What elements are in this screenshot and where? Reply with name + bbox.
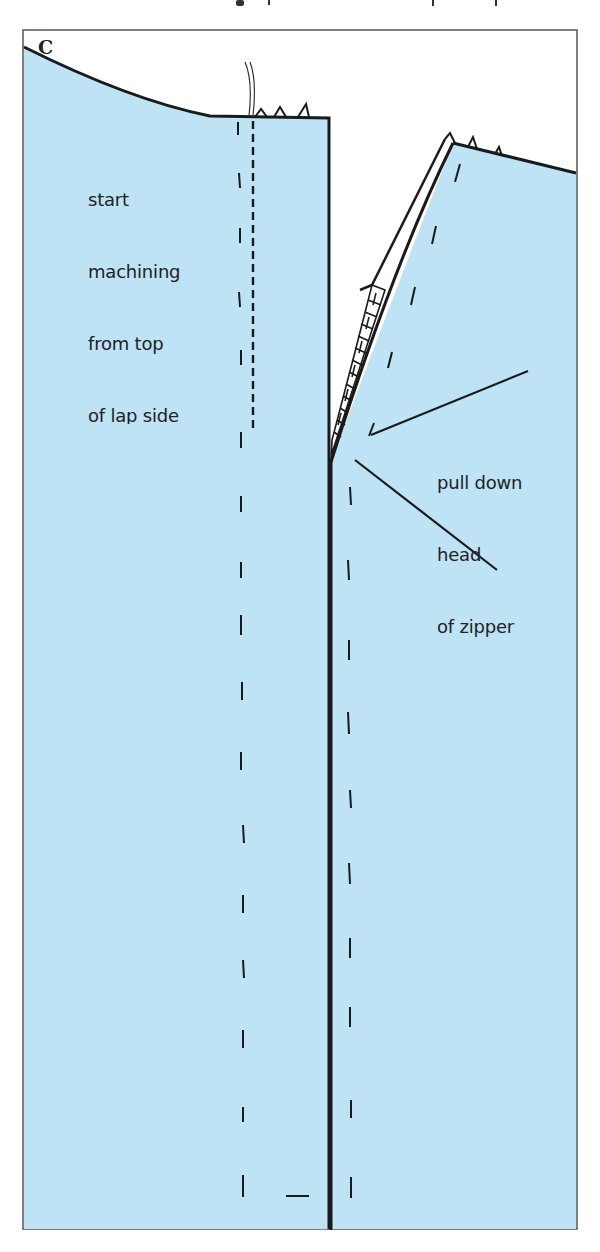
annotation-line: head bbox=[437, 543, 522, 567]
annotation-start-machining: start machining from top of lap side bbox=[88, 140, 180, 448]
annotation-line: start bbox=[88, 188, 180, 212]
annotation-line: from top bbox=[88, 332, 180, 356]
annotation-line: machining bbox=[88, 260, 180, 284]
cropped-caption-fragments bbox=[236, 0, 497, 6]
panel-label: C bbox=[38, 36, 53, 58]
annotation-line: of lap side bbox=[88, 404, 180, 424]
annotation-line: of zipper bbox=[437, 615, 522, 639]
annotation-pull-down-zipper: pull down head of zipper bbox=[437, 423, 522, 663]
annotation-line: pull down bbox=[437, 471, 522, 495]
